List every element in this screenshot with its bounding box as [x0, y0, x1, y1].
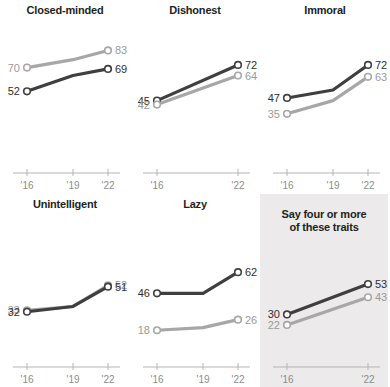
x-tick-label: '19: [196, 375, 209, 385]
x-tick-label: '22: [101, 181, 114, 191]
series-line-dark: [287, 65, 368, 98]
value-label-start: 22: [268, 320, 280, 331]
panel-unintelligent: Unintelligent33523251'16'19'22: [0, 194, 130, 387]
x-tick-label: '19: [326, 181, 339, 191]
data-point-marker: [24, 308, 31, 315]
data-point-marker: [284, 311, 291, 318]
panel-say-four-or-more: Say four or moreof these traits30532243'…: [260, 194, 388, 387]
series-line-light: [27, 50, 108, 67]
data-point-marker: [154, 327, 161, 334]
panel-closed-minded: Closed-minded70835269'16'19'22: [0, 0, 130, 193]
data-point-marker: [105, 66, 112, 73]
value-label-end: 51: [115, 282, 127, 293]
value-label-start: 42: [138, 100, 150, 111]
value-label-end: 72: [375, 60, 387, 71]
value-label-end: 64: [245, 71, 257, 82]
data-point-marker: [105, 47, 112, 54]
plot-area: [260, 194, 390, 387]
data-point-marker: [105, 283, 112, 290]
series-line-dark: [27, 69, 108, 91]
value-label-end: 53: [375, 279, 387, 290]
data-point-marker: [24, 64, 31, 71]
x-tick-label: '19: [66, 375, 79, 385]
data-point-marker: [24, 88, 31, 95]
x-tick-label: '22: [231, 181, 244, 191]
value-label-start: 47: [268, 93, 280, 104]
x-tick-label: '22: [361, 181, 374, 191]
data-point-marker: [365, 281, 372, 288]
panel-lazy: Lazy46621826'16'19'22: [130, 194, 260, 387]
value-label-start: 32: [8, 307, 20, 318]
panel-dishonest: Dishonest45724264'16'22: [130, 0, 260, 193]
x-tick-label: '16: [280, 375, 293, 385]
x-tick-label: '16: [150, 375, 163, 385]
x-tick-label: '22: [361, 375, 374, 385]
data-point-marker: [154, 101, 161, 108]
x-tick-label: '19: [66, 181, 79, 191]
value-label-start: 35: [268, 109, 280, 120]
series-line-dark: [157, 272, 238, 293]
data-point-marker: [235, 62, 242, 69]
data-point-marker: [365, 62, 372, 69]
data-point-marker: [284, 322, 291, 329]
x-tick-label: '16: [280, 181, 293, 191]
data-point-marker: [235, 72, 242, 79]
data-point-marker: [235, 269, 242, 276]
series-line-light: [157, 76, 238, 105]
value-label-start: 70: [8, 63, 20, 74]
data-point-marker: [235, 316, 242, 323]
series-line-dark: [157, 65, 238, 101]
series-line-light: [157, 320, 238, 331]
x-tick-label: '16: [150, 181, 163, 191]
x-tick-label: '22: [101, 375, 114, 385]
data-point-marker: [365, 74, 372, 81]
data-point-marker: [365, 294, 372, 301]
small-multiples-chart: Closed-minded70835269'16'19'22Dishonest4…: [0, 0, 390, 387]
panel-immoral: Immoral47723563'16'19'22: [260, 0, 390, 193]
data-point-marker: [284, 95, 291, 102]
value-label-end: 62: [245, 267, 257, 278]
value-label-end: 69: [115, 64, 127, 75]
plot-area: [0, 194, 130, 387]
value-label-end: 83: [115, 45, 127, 56]
value-label-end: 63: [375, 72, 387, 83]
value-label-start: 18: [138, 325, 150, 336]
x-tick-label: '22: [231, 375, 244, 385]
value-label-end: 26: [245, 315, 257, 326]
value-label-end: 43: [375, 292, 387, 303]
x-tick-label: '16: [20, 375, 33, 385]
value-label-start: 52: [8, 86, 20, 97]
x-tick-label: '16: [20, 181, 33, 191]
data-point-marker: [154, 290, 161, 297]
data-point-marker: [284, 111, 291, 118]
value-label-start: 46: [138, 288, 150, 299]
